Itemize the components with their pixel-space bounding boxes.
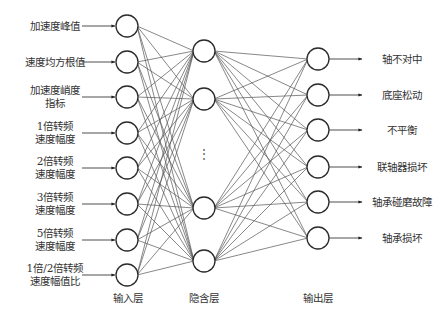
input-node-5 bbox=[116, 193, 138, 215]
output-label-3: 联轴器损坏 bbox=[365, 161, 439, 174]
input-label-1: 速度均方根值 bbox=[0, 56, 110, 69]
output-label-5: 轴承损坏 bbox=[365, 232, 439, 245]
input-label-2: 加速度峭度指标 bbox=[0, 84, 110, 110]
input-node-2 bbox=[116, 86, 138, 108]
output-label-4: 轴承碰磨故障 bbox=[362, 196, 439, 209]
input-label-4: 2倍转频速度幅度 bbox=[0, 155, 110, 181]
hidden-layer-label: 隐含层 bbox=[184, 292, 224, 305]
input-label-5: 3倍转频速度幅度 bbox=[0, 191, 110, 217]
input-node-6 bbox=[116, 229, 138, 251]
input-layer-label: 输入层 bbox=[108, 292, 148, 305]
output-label-0: 轴不对中 bbox=[365, 53, 439, 66]
input-label-3: 1倍转频速度幅度 bbox=[0, 120, 110, 146]
output-label-1: 底座松动 bbox=[365, 89, 439, 102]
input-node-4 bbox=[116, 157, 138, 179]
connection-edges bbox=[137, 26, 308, 275]
input-node-0 bbox=[116, 15, 138, 37]
output-label-2: 不平衡 bbox=[365, 124, 439, 137]
input-label-7: 1倍/2倍转频速度幅值比 bbox=[0, 262, 110, 288]
output-node-2 bbox=[307, 119, 329, 141]
output-node-3 bbox=[307, 156, 329, 178]
hidden-node-0 bbox=[193, 40, 215, 62]
output-node-4 bbox=[307, 191, 329, 213]
input-node-7 bbox=[116, 264, 138, 286]
input-node-3 bbox=[116, 122, 138, 144]
output-node-1 bbox=[307, 84, 329, 106]
hidden-node-3 bbox=[193, 250, 215, 272]
input-label-6: 5倍转频速度幅度 bbox=[0, 227, 110, 253]
hidden-ellipsis: ⋮ bbox=[198, 147, 210, 161]
hidden-node-2 bbox=[193, 197, 215, 219]
output-node-0 bbox=[307, 48, 329, 70]
input-label-0: 加速度峰值 bbox=[0, 20, 110, 33]
input-node-1 bbox=[116, 51, 138, 73]
hidden-node-1 bbox=[193, 88, 215, 110]
output-node-5 bbox=[307, 227, 329, 249]
output-layer-label: 输出层 bbox=[298, 292, 338, 305]
